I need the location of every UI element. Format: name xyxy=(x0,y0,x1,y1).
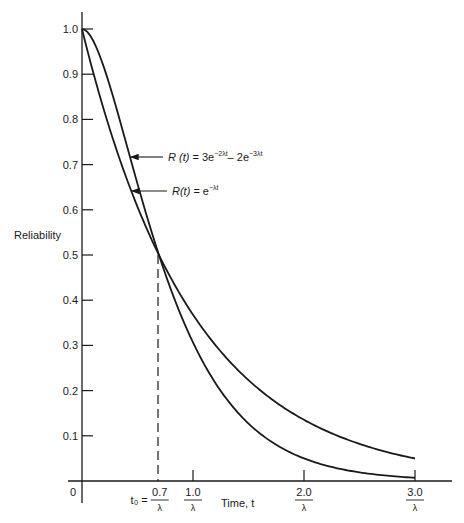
origin-label: 0 xyxy=(70,486,76,498)
x-tick-numerator: 3.0 xyxy=(407,486,422,498)
x-tick-prefix: t₀ = xyxy=(131,494,148,506)
y-tick-label: 0.7 xyxy=(63,159,78,171)
legend-formula-simplex: R(t) = e−λt xyxy=(172,184,219,197)
x-tick-denominator: λ xyxy=(413,503,418,513)
x-tick-denominator: λ xyxy=(302,503,307,513)
y-axis-title: Reliability xyxy=(14,229,62,241)
x-tick-numerator: 2.0 xyxy=(296,486,311,498)
y-tick-label: 0.5 xyxy=(63,249,78,261)
legend-formula-tmr: R (t) = 3e−2λt– 2e−3λt xyxy=(168,150,263,163)
x-tick-numerator: 1.0 xyxy=(185,486,200,498)
y-tick-label: 0.8 xyxy=(63,113,78,125)
x-axis-ticks: 0.7λt₀ =1.0λ2.0λ3.0λ xyxy=(131,470,424,513)
y-tick-label: 1.0 xyxy=(63,23,78,35)
reliability-chart: 1.00.90.80.70.60.50.40.30.20.1 Reliabili… xyxy=(0,0,464,523)
x-tick-numerator: 0.7 xyxy=(152,486,167,498)
y-tick-label: 0.9 xyxy=(63,68,78,80)
x-tick-denominator: λ xyxy=(191,503,196,513)
y-tick-label: 0.1 xyxy=(63,430,78,442)
y-tick-label: 0.4 xyxy=(63,294,78,306)
curve-simplex-reliability xyxy=(82,29,415,459)
y-axis-ticks: 1.00.90.80.70.60.50.40.30.20.1 xyxy=(63,23,93,442)
x-axis-title: Time, t xyxy=(221,497,254,509)
curve-tmr-reliability xyxy=(82,29,415,478)
y-tick-label: 0.3 xyxy=(63,339,78,351)
y-tick-label: 0.6 xyxy=(63,204,78,216)
x-tick-denominator: λ xyxy=(157,503,162,513)
y-tick-label: 0.2 xyxy=(63,385,78,397)
